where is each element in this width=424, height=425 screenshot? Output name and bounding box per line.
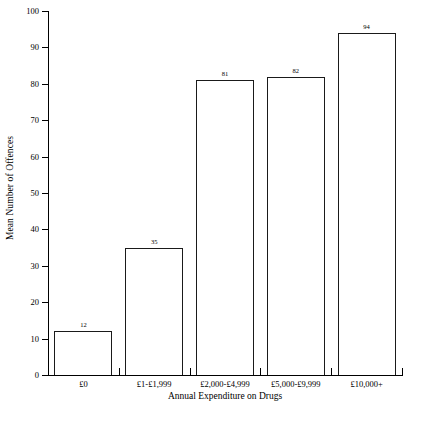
y-tick-label-wrap: 10 bbox=[8, 339, 39, 340]
x-tick-mark bbox=[260, 368, 261, 376]
x-tick-label: £10,000+ bbox=[350, 380, 382, 389]
y-tick-label-wrap: 80 bbox=[8, 84, 39, 85]
y-tick-label-wrap: 100 bbox=[8, 11, 39, 12]
y-tick-label: 20 bbox=[8, 298, 39, 307]
bar-value-label: 35 bbox=[151, 239, 158, 246]
y-tick-label-wrap: 50 bbox=[8, 193, 39, 194]
y-tick-label: 60 bbox=[8, 153, 39, 162]
y-tick-label: 80 bbox=[8, 80, 39, 89]
y-tick-label-wrap: 30 bbox=[8, 266, 39, 267]
y-axis-title: Mean Number of Offences bbox=[0, 0, 20, 375]
x-tick-mark bbox=[48, 368, 49, 376]
y-tick-label-wrap: 60 bbox=[8, 157, 39, 158]
bar-chart: Mean Number of Offences 0102030405060708… bbox=[0, 0, 424, 425]
y-tick-label-wrap: 20 bbox=[8, 302, 39, 303]
x-tick-mark bbox=[402, 368, 403, 376]
y-tick-label: 30 bbox=[8, 262, 39, 271]
y-tick-label-wrap: 40 bbox=[8, 229, 39, 230]
bar-value-label: 12 bbox=[80, 322, 87, 329]
y-tick-mark bbox=[42, 11, 49, 12]
y-tick-mark bbox=[42, 266, 49, 267]
y-tick-mark bbox=[42, 84, 49, 85]
y-tick-label: 50 bbox=[8, 189, 39, 198]
bar bbox=[196, 80, 254, 376]
y-tick-mark bbox=[42, 302, 49, 303]
x-tick-mark bbox=[190, 368, 191, 376]
y-tick-label-wrap: 0 bbox=[8, 375, 39, 376]
y-tick-mark bbox=[42, 157, 49, 158]
x-tick-label: £0 bbox=[79, 380, 88, 389]
y-tick-label: 100 bbox=[8, 7, 39, 16]
y-tick-label: 70 bbox=[8, 116, 39, 125]
x-tick-mark bbox=[119, 368, 120, 376]
bar bbox=[338, 33, 396, 376]
y-axis-title-text: Mean Number of Offences bbox=[5, 135, 15, 239]
x-tick-label: £5,000-£9,999 bbox=[271, 380, 321, 389]
x-axis-title: Annual Expenditure on Drugs bbox=[48, 392, 402, 402]
bar bbox=[125, 248, 183, 376]
y-tick-label-wrap: 90 bbox=[8, 47, 39, 48]
x-tick-label: £2,000-£4,999 bbox=[200, 380, 250, 389]
y-tick-label: 90 bbox=[8, 43, 39, 52]
y-tick-mark bbox=[42, 47, 49, 48]
y-tick-label: 0 bbox=[8, 371, 39, 380]
bar bbox=[267, 77, 325, 376]
x-tick-label: £1-£1,999 bbox=[137, 380, 172, 389]
x-axis-line bbox=[48, 375, 402, 376]
y-tick-mark bbox=[42, 229, 49, 230]
y-tick-label: 10 bbox=[8, 335, 39, 344]
y-tick-mark bbox=[42, 339, 49, 340]
bar-value-label: 94 bbox=[363, 24, 370, 31]
y-tick-mark bbox=[42, 193, 49, 194]
bar-value-label: 81 bbox=[222, 71, 229, 78]
y-tick-label-wrap: 70 bbox=[8, 120, 39, 121]
y-tick-mark bbox=[42, 120, 49, 121]
y-tick-label: 40 bbox=[8, 225, 39, 234]
bar-value-label: 82 bbox=[293, 68, 300, 75]
bar bbox=[54, 331, 112, 376]
x-tick-mark bbox=[331, 368, 332, 376]
